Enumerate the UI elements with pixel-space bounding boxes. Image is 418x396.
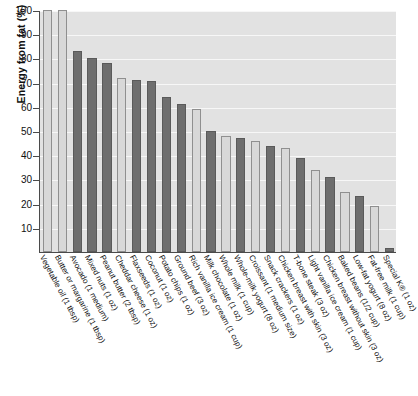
y-axis-tick-label: 100 bbox=[2, 6, 32, 16]
y-axis-tick-label: 60 bbox=[2, 103, 32, 113]
bar bbox=[177, 104, 186, 252]
bar bbox=[325, 177, 334, 252]
bar bbox=[296, 158, 305, 252]
bar bbox=[251, 141, 260, 252]
bar bbox=[162, 97, 171, 252]
bar bbox=[132, 80, 141, 252]
bar bbox=[370, 206, 379, 252]
y-axis-tick-label: 90 bbox=[2, 30, 32, 40]
bar bbox=[117, 78, 126, 252]
bar bbox=[355, 196, 364, 252]
bar bbox=[221, 136, 230, 252]
bar bbox=[311, 170, 320, 252]
bar bbox=[87, 58, 96, 252]
bar bbox=[340, 192, 349, 253]
bar-series bbox=[40, 11, 396, 252]
y-axis-tick-label: 20 bbox=[2, 200, 32, 210]
y-axis-tick-label: 50 bbox=[2, 127, 32, 137]
bar bbox=[192, 109, 201, 252]
y-axis-tick-label: 30 bbox=[2, 175, 32, 185]
y-axis-tick-label: 80 bbox=[2, 54, 32, 64]
bar bbox=[147, 81, 156, 252]
x-axis-labels: Vegetable oil (1 tbsp)Butter or margarin… bbox=[39, 254, 396, 396]
bar bbox=[206, 131, 215, 252]
y-axis-tick-label: 10 bbox=[2, 224, 32, 234]
bar bbox=[385, 248, 394, 252]
bar bbox=[73, 51, 82, 252]
y-axis-tick-label: 70 bbox=[2, 79, 32, 89]
bar bbox=[58, 10, 67, 252]
bar bbox=[102, 63, 111, 252]
bar bbox=[266, 146, 275, 252]
plot-area bbox=[39, 11, 396, 253]
bar bbox=[236, 138, 245, 252]
bar bbox=[281, 148, 290, 252]
bar bbox=[43, 10, 52, 252]
y-axis-tick-label: 40 bbox=[2, 151, 32, 161]
